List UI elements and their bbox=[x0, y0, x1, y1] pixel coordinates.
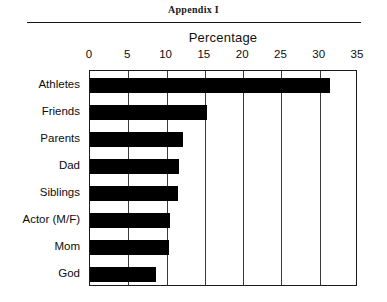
bar bbox=[90, 267, 156, 282]
appendix-title: Appendix I bbox=[0, 4, 387, 15]
header-divider bbox=[27, 22, 361, 23]
bar bbox=[90, 105, 207, 120]
category-label: Parents bbox=[0, 132, 80, 144]
category-label: Actor (M/F) bbox=[0, 213, 80, 225]
plot-area bbox=[89, 70, 357, 286]
category-label: Mom bbox=[0, 240, 80, 252]
bars-layer bbox=[90, 71, 356, 285]
category-label: Dad bbox=[0, 159, 80, 171]
bar bbox=[90, 159, 179, 174]
bar bbox=[90, 78, 330, 93]
x-tick-label: 35 bbox=[342, 48, 372, 60]
bar bbox=[90, 240, 169, 255]
x-axis-tick-labels: 05101520253035 bbox=[0, 48, 387, 64]
x-tick-label: 5 bbox=[112, 48, 142, 60]
x-tick-label: 10 bbox=[151, 48, 181, 60]
category-label: Friends bbox=[0, 105, 80, 117]
y-axis-category-labels: AthletesFriendsParentsDadSiblingsActor (… bbox=[0, 70, 85, 286]
category-label: God bbox=[0, 267, 80, 279]
bar bbox=[90, 132, 183, 147]
category-label: Siblings bbox=[0, 186, 80, 198]
category-label: Athletes bbox=[0, 78, 80, 90]
bar bbox=[90, 213, 170, 228]
x-tick-label: 25 bbox=[265, 48, 295, 60]
x-tick-label: 20 bbox=[227, 48, 257, 60]
x-tick-label: 0 bbox=[74, 48, 104, 60]
x-tick-label: 15 bbox=[189, 48, 219, 60]
x-tick-label: 30 bbox=[304, 48, 334, 60]
bar-chart: Percentage 05101520253035 AthletesFriend… bbox=[0, 26, 387, 302]
page-header: Appendix I bbox=[0, 0, 387, 26]
bar bbox=[90, 186, 178, 201]
chart-title: Percentage bbox=[89, 30, 357, 45]
